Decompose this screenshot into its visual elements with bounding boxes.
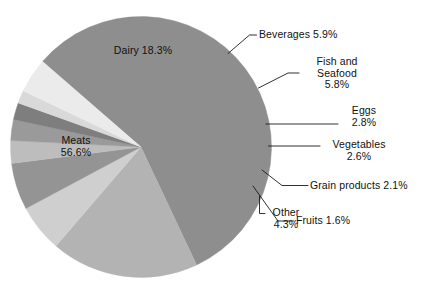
slice-label-other: Other 4.3% (265, 207, 307, 230)
pie-chart: Meats 56.6% Dairy 18.3% Beverages 5.9% F… (0, 0, 428, 291)
slice-label-meats-value: 56.6% (40, 146, 112, 158)
slice-label-eggs-value: 2.8% (340, 117, 388, 129)
leader-line-beverages (228, 35, 257, 54)
slice-label-vegetables-value: 2.6% (322, 151, 396, 163)
slice-label-beverages: Beverages 5.9% (259, 29, 337, 41)
slice-label-other-value: 4.3% (265, 219, 307, 231)
slice-label-vegetables-name: Vegetables (322, 139, 396, 151)
slice-label-eggs-name: Eggs (340, 105, 388, 117)
slice-label-dairy: Dairy 18.3% (95, 44, 191, 56)
leader-line-fish-and-seafood (259, 73, 300, 88)
slice-label-grain-products: Grain products 2.1% (310, 180, 408, 192)
slice-label-fish-and-seafood: Fish and Seafood 5.8% (300, 56, 374, 91)
slice-label-beverages-text: Beverages 5.9% (259, 28, 337, 40)
slice-label-meats-name: Meats (40, 134, 112, 146)
slice-label-eggs: Eggs 2.8% (340, 105, 388, 128)
slice-label-dairy-text: Dairy 18.3% (114, 44, 172, 56)
slice-label-grain-text: Grain products 2.1% (310, 179, 408, 191)
slice-label-fish-line3: 5.8% (300, 79, 374, 91)
slice-label-meats: Meats 56.6% (40, 134, 112, 158)
slice-label-other-name: Other (265, 207, 307, 219)
slice-label-fish-line1: Fish and (300, 56, 374, 68)
slice-label-vegetables: Vegetables 2.6% (322, 139, 396, 162)
